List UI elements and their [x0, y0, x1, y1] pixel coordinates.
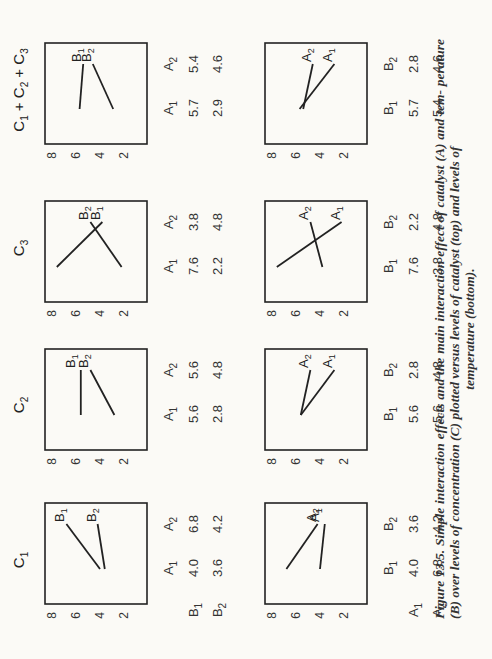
plot-frame — [265, 349, 367, 450]
y-tick-label: 2 — [337, 310, 351, 317]
table-cell: 3.6 — [210, 559, 225, 577]
column-title-sum: C1 + C2 + C3 — [10, 48, 30, 131]
table-cell: 5.4 — [186, 55, 201, 73]
table-cell: 2.2 — [210, 257, 225, 275]
table-row-label: A1 — [406, 603, 424, 617]
y-tick-label: 8 — [265, 152, 279, 159]
y-tick-label: 6 — [289, 152, 303, 159]
table-col-header: B1 — [381, 101, 399, 115]
series-label-a2: A2 — [296, 354, 313, 368]
y-tick-label: 8 — [265, 612, 279, 619]
table-col-header: B1 — [381, 561, 399, 575]
table-col-header: B2 — [381, 363, 399, 377]
series-line-b2 — [93, 64, 113, 109]
interaction-plot-bottom-3: 8642A1A2 — [265, 183, 397, 324]
y-tick-label: 6 — [69, 458, 83, 465]
y-tick-label: 4 — [313, 458, 327, 465]
y-tick-label: 8 — [45, 152, 59, 159]
series-line-a2 — [310, 222, 322, 267]
series-line-b1 — [66, 524, 100, 569]
table-col-header: B2 — [381, 215, 399, 229]
series-label-a2: A2 — [296, 206, 313, 220]
table-col-header: A2 — [161, 57, 179, 71]
y-tick-label: 2 — [337, 152, 351, 159]
y-tick-label: 6 — [69, 612, 83, 619]
y-tick-label: 8 — [265, 458, 279, 465]
table-col-header: A1 — [161, 101, 179, 115]
table-col-header: B1 — [381, 259, 399, 273]
table-col-header: B2 — [381, 57, 399, 71]
interaction-plot-bottom-1: 8642A1A2 — [265, 485, 397, 626]
interaction-plot-top-3: 8642B1B2 — [45, 183, 177, 324]
y-tick-label: 8 — [45, 612, 59, 619]
table-col-header: A1 — [161, 561, 179, 575]
table-cell: 2.9 — [210, 99, 225, 117]
table-row-label: B2 — [210, 603, 228, 617]
series-line-a2 — [303, 64, 313, 109]
y-tick-label: 6 — [289, 458, 303, 465]
y-tick-label: 2 — [337, 458, 351, 465]
plot-frame — [265, 43, 367, 144]
y-tick-label: 6 — [69, 310, 83, 317]
table-col-header: A1 — [161, 259, 179, 273]
table-cell: 4.6 — [210, 55, 225, 73]
table-col-header: A1 — [161, 407, 179, 421]
y-tick-label: 2 — [337, 612, 351, 619]
y-tick-label: 6 — [289, 310, 303, 317]
table-cell: 7.6 — [186, 257, 201, 275]
figure-page-rotated: C1 C2 C3 C1 + C2 + C3 8642B1B2A1A2B14.06… — [0, 0, 492, 659]
figure-caption: Figure 13.5. Simple interaction effects … — [432, 39, 477, 619]
plot-frame — [265, 201, 367, 302]
table-cell: 5.7 — [406, 99, 421, 117]
table-cell: 5.6 — [186, 361, 201, 379]
series-label-a1: A1 — [320, 48, 337, 62]
table-cell: 4.2 — [210, 515, 225, 533]
series-line-a1 — [320, 524, 325, 569]
series-line-b2 — [90, 370, 114, 415]
interaction-plot-top-4: 8642B1B2 — [45, 25, 177, 166]
y-tick-label: 4 — [93, 310, 107, 317]
plot-frame — [45, 349, 147, 450]
table-cell: 6.8 — [186, 515, 201, 533]
series-line-b2 — [90, 222, 121, 267]
interaction-plot-bottom-2: 8642A1A2 — [265, 331, 397, 472]
interaction-plot-top-2: 8642B1B2 — [45, 331, 177, 472]
y-tick-label: 2 — [117, 152, 131, 159]
table-cell: 2.8 — [210, 405, 225, 423]
y-tick-label: 4 — [313, 310, 327, 317]
series-label-a2: A2 — [304, 508, 321, 522]
series-label-b1: B1 — [52, 508, 69, 522]
y-tick-label: 2 — [117, 612, 131, 619]
series-label-b2: B2 — [84, 508, 101, 522]
series-line-a2 — [286, 524, 317, 569]
y-tick-label: 2 — [117, 458, 131, 465]
table-cell: 3.8 — [186, 213, 201, 231]
table-cell: 4.8 — [210, 361, 225, 379]
table-cell: 3.6 — [406, 515, 421, 533]
table-col-header: A2 — [161, 363, 179, 377]
y-tick-label: 6 — [289, 612, 303, 619]
y-tick-label: 4 — [93, 612, 107, 619]
y-tick-label: 6 — [69, 152, 83, 159]
table-col-header: A2 — [161, 215, 179, 229]
y-tick-label: 2 — [117, 310, 131, 317]
table-cell: 4.8 — [210, 213, 225, 231]
y-tick-label: 4 — [313, 612, 327, 619]
y-tick-label: 4 — [313, 152, 327, 159]
series-label-a2: A2 — [299, 48, 316, 62]
table-cell: 5.7 — [186, 99, 201, 117]
column-title-c3: C3 — [10, 240, 30, 256]
interaction-plot-top-1: 8642B1B2 — [45, 485, 177, 626]
table-cell: 5.6 — [186, 405, 201, 423]
y-tick-label: 8 — [45, 458, 59, 465]
series-line-b1 — [80, 64, 84, 109]
figure-frame: C1 C2 C3 C1 + C2 + C3 8642B1B2A1A2B14.06… — [0, 0, 492, 659]
series-line-b2 — [98, 524, 105, 569]
y-tick-label: 8 — [45, 310, 59, 317]
column-title-c1: C1 — [10, 552, 30, 568]
series-label-a1: A1 — [320, 354, 337, 368]
series-label-a1: A1 — [328, 206, 345, 220]
caption-line-3: temperature (bottom). — [462, 39, 477, 619]
table-cell: 2.8 — [406, 55, 421, 73]
table-col-header: A2 — [161, 517, 179, 531]
